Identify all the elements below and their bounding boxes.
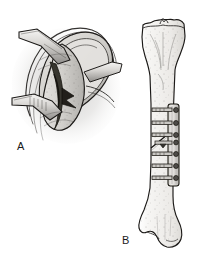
screw (152, 108, 179, 113)
panel-label-a: A (17, 141, 25, 152)
panel-a-illustration (0, 15, 134, 156)
screw (152, 164, 179, 169)
screw (152, 176, 179, 181)
illustration-canvas (0, 0, 215, 266)
panel-label-b: B (122, 235, 130, 246)
fixation-plate (168, 104, 179, 186)
screw (152, 121, 179, 126)
panel-b-illustration (138, 18, 188, 250)
screw (152, 133, 179, 138)
screw (152, 152, 179, 157)
figure-plate: A B (0, 0, 215, 266)
